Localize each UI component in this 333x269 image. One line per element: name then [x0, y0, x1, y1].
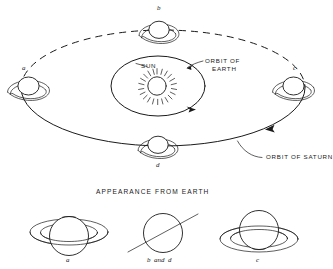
sun-glyph	[139, 69, 177, 105]
position-label-c: c	[293, 64, 296, 72]
saturn-planet-d	[138, 136, 178, 158]
appearance-figure-a	[30, 217, 108, 256]
saturn-planet-c	[273, 77, 315, 100]
saturn-planet-b	[139, 21, 179, 43]
appearance-caption: APPEARANCE FROM EARTH	[96, 188, 209, 195]
appearance-figure-bd	[128, 214, 198, 253]
orbit-of-saturn-label: ORBIT OF SATURN	[266, 153, 333, 161]
appearance-figure-c	[220, 211, 298, 253]
appearance-label-c: c	[256, 256, 259, 264]
earth-orbit-ellipse	[111, 56, 205, 116]
sun-label: SUN	[141, 62, 156, 70]
position-label-d: d	[156, 161, 160, 169]
orbit-of-earth-label-line1: ORBIT OF	[205, 57, 240, 65]
orbit-of-earth-leader	[186, 61, 203, 70]
position-label-b: b	[157, 4, 161, 12]
saturn-planet-a	[8, 77, 50, 100]
sun-rays	[139, 69, 177, 105]
orbit-of-earth-label-line2: EARTH	[212, 65, 237, 73]
position-label-a: a	[22, 64, 26, 72]
orbit-of-saturn-leader	[238, 141, 263, 158]
appearance-label-bd: b and d	[147, 256, 172, 264]
appearance-label-a: a	[66, 256, 70, 264]
